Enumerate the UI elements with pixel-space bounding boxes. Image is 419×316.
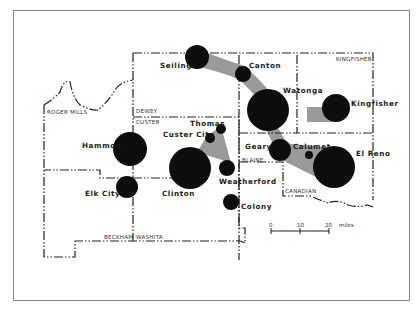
label-kingfisher: Kingfisher (351, 99, 399, 108)
label-custer-city: Custer City (163, 130, 215, 139)
scale-bar: 0 10 20 miles (269, 222, 354, 234)
town-circle-clinton (169, 147, 211, 189)
town-circle-watonga (247, 89, 289, 131)
label-elk-city: Elk City (85, 189, 120, 198)
scale-tick-10: 10 (297, 222, 305, 228)
border-custer-inner (44, 170, 133, 178)
label-calumet: Calumet (293, 142, 331, 151)
label-clinton: Clinton (162, 189, 195, 198)
town-circle-geary (269, 139, 291, 161)
county-roger-mills: ROGER MILLS (47, 109, 88, 115)
county-canadian: CANADIAN (285, 188, 316, 194)
scale-unit: miles (339, 222, 354, 228)
county-custer: CUSTER (136, 119, 160, 125)
label-thomas: Thomas (190, 119, 225, 128)
county-blaine: BLAINE (242, 157, 264, 163)
town-circle-calumet (305, 151, 313, 159)
county-washita: WASHITA (136, 234, 163, 240)
regional-map: Seiling Canton Watonga Kingfisher Hammon… (0, 0, 419, 316)
label-hammon: Hammon (82, 141, 122, 150)
town-circle-colony (223, 194, 239, 210)
town-circle-weatherford (219, 160, 235, 176)
town-circle-el-reno (313, 146, 355, 188)
scale-tick-20: 20 (325, 222, 333, 228)
label-colony: Colony (241, 202, 272, 211)
label-geary: Geary (245, 142, 272, 151)
county-beckham: BECKHAM (104, 234, 133, 240)
label-el-reno: El Reno (356, 149, 391, 158)
scale-tick-0: 0 (269, 222, 273, 228)
town-circle-kingfisher (322, 94, 350, 122)
county-dewey: DEWEY (136, 108, 158, 114)
label-watonga: Watonga (283, 86, 323, 95)
county-kingfisher: KINGFISHER (336, 56, 372, 62)
label-seiling: Seiling (160, 61, 192, 70)
label-canton: Canton (249, 61, 281, 70)
label-weatherford: Weatherford (219, 177, 277, 186)
